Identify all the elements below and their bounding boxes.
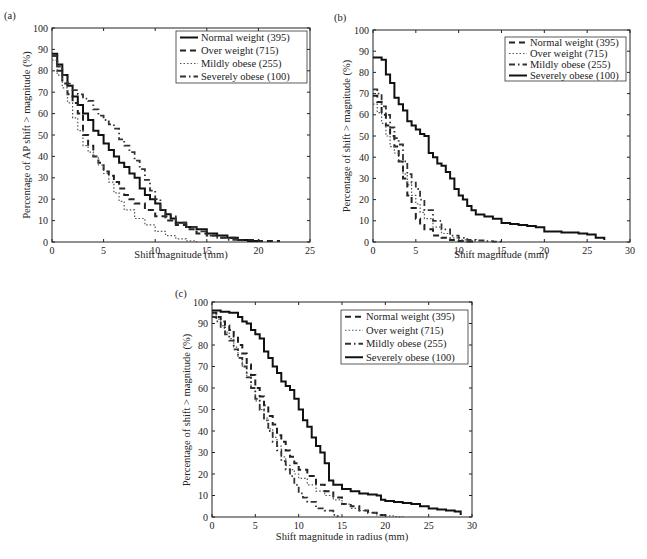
- y-tick-label: 50: [198, 404, 208, 415]
- x-tick-label: 15: [497, 245, 507, 256]
- y-tick-label: 70: [359, 88, 369, 99]
- x-tick-label: 0: [210, 520, 215, 531]
- panel-label: (a): [4, 10, 16, 22]
- x-tick-label: 20: [253, 245, 263, 256]
- legend-entry-label: Severely obese (100): [366, 352, 455, 364]
- y-tick-label: 20: [38, 194, 48, 205]
- figure-canvas: (a) Shift magnitude (mm) Percentage of A…: [0, 0, 647, 559]
- x-tick-label: 30: [467, 520, 477, 531]
- y-tick-label: 0: [43, 237, 48, 248]
- x-axis-label: Shift magnitude (mm): [134, 249, 228, 261]
- y-axis-label: Percentage of shift > magnitude (%): [181, 333, 193, 486]
- y-tick-label: 30: [198, 447, 208, 458]
- y-tick-label: 20: [198, 469, 208, 480]
- panel-label: (b): [334, 12, 347, 24]
- legend-entry-label: Severely obese (100): [530, 70, 619, 82]
- legend-entry-label: Over weight (715): [201, 45, 279, 57]
- x-tick-label: 20: [380, 520, 390, 531]
- series-line-2: [212, 317, 338, 517]
- y-tick-label: 90: [38, 44, 48, 55]
- y-tick-label: 50: [38, 130, 48, 141]
- legend-entry-label: Mildly obese (255): [201, 58, 282, 70]
- y-tick-label: 100: [33, 23, 48, 34]
- x-axis-label: Shift magnitude in radius (mm): [276, 531, 409, 543]
- x-tick-label: 10: [294, 520, 304, 531]
- x-tick-label: 15: [202, 245, 212, 256]
- series-line-3: [52, 56, 238, 242]
- x-tick-label: 5: [413, 245, 418, 256]
- y-tick-label: 10: [359, 215, 369, 226]
- y-tick-label: 60: [38, 108, 48, 119]
- y-tick-label: 0: [364, 237, 369, 248]
- x-tick-label: 25: [305, 245, 315, 256]
- panel-label: (c): [175, 288, 187, 300]
- y-tick-label: 60: [359, 109, 369, 120]
- y-tick-label: 100: [193, 297, 208, 308]
- series-line-2: [52, 60, 197, 242]
- legend: Normal weight (395)Over weight (715)Mild…: [341, 310, 468, 364]
- y-axis-label: Percentage of shift > magnitude (%): [341, 59, 353, 212]
- legend-entry-label: Over weight (715): [366, 325, 444, 337]
- y-tick-label: 90: [198, 318, 208, 329]
- y-tick-label: 40: [359, 152, 369, 163]
- x-tick-label: 30: [625, 245, 635, 256]
- y-tick-label: 0: [203, 512, 208, 523]
- y-tick-label: 10: [198, 490, 208, 501]
- y-tick-label: 30: [38, 172, 48, 183]
- x-tick-label: 10: [150, 245, 160, 256]
- legend-entry-label: Severely obese (100): [201, 71, 290, 83]
- x-tick-label: 15: [337, 520, 347, 531]
- x-tick-label: 0: [50, 245, 55, 256]
- y-tick-label: 70: [38, 87, 48, 98]
- legend: Normal weight (395)Over weight (715)Mild…: [176, 31, 307, 83]
- chart-panel-c: (c) Shift magnitude in radius (mm) Perce…: [175, 288, 477, 543]
- chart-panel-b: (b) Shift magnitude (mm) Percentage of s…: [334, 12, 635, 261]
- x-tick-label: 25: [582, 245, 592, 256]
- x-tick-label: 5: [253, 520, 258, 531]
- chart-panel-a: (a) Shift magnitude (mm) Percentage of A…: [4, 10, 315, 261]
- legend: Normal weight (395)Over weight (715)Mild…: [505, 37, 626, 82]
- x-tick-label: 10: [454, 245, 464, 256]
- series-line-2: [373, 89, 502, 242]
- legend-entry-label: Mildly obese (255): [366, 338, 447, 350]
- series-line-3: [373, 58, 604, 240]
- x-tick-label: 25: [424, 520, 434, 531]
- x-tick-label: 5: [101, 245, 106, 256]
- y-tick-label: 80: [198, 340, 208, 351]
- y-axis-label: Percentage of AP shift > magnitude (%): [21, 51, 33, 219]
- y-tick-label: 40: [38, 151, 48, 162]
- y-tick-label: 80: [38, 65, 48, 76]
- y-tick-label: 60: [198, 383, 208, 394]
- y-tick-label: 30: [359, 173, 369, 184]
- series-line-0: [373, 96, 476, 242]
- y-tick-label: 70: [198, 361, 208, 372]
- legend-entry-label: Normal weight (395): [201, 32, 290, 44]
- x-tick-label: 0: [371, 245, 376, 256]
- y-tick-label: 100: [354, 25, 369, 36]
- x-tick-label: 20: [539, 245, 549, 256]
- y-tick-label: 40: [198, 426, 208, 437]
- y-tick-label: 10: [38, 215, 48, 226]
- legend-entry-label: Normal weight (395): [366, 311, 455, 323]
- y-tick-label: 20: [359, 194, 369, 205]
- y-tick-label: 50: [359, 131, 369, 142]
- y-tick-label: 80: [359, 67, 369, 78]
- y-tick-label: 90: [359, 46, 369, 57]
